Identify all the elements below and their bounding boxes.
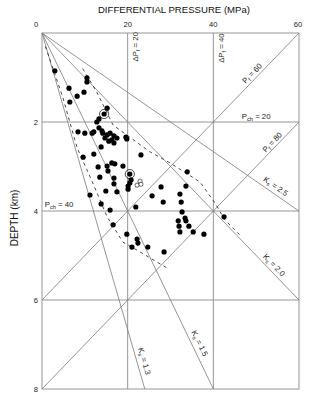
- annotation-value: = 2.0: [267, 258, 288, 279]
- data-point: [176, 218, 181, 223]
- annotation-pch-20: Pch = 20: [242, 112, 271, 122]
- data-point: [186, 224, 191, 229]
- data-point: [112, 161, 117, 166]
- data-point: [124, 136, 129, 141]
- annotation-pf-80: Pf = 80: [261, 130, 285, 155]
- data-point: [111, 222, 116, 227]
- annotation-value: = 60: [245, 61, 264, 80]
- data-point: [52, 68, 57, 73]
- data-point: [138, 152, 143, 157]
- data-point: [176, 224, 181, 229]
- data-point: [75, 129, 80, 134]
- data-point: [191, 229, 196, 234]
- annotation-pf-60: Pf = 60: [241, 61, 265, 86]
- data-point: [82, 131, 87, 136]
- annotation-ks-1-3: Ks = 1.3: [135, 347, 152, 376]
- data-point: [185, 169, 190, 174]
- x-tick-label: 60: [294, 20, 302, 29]
- data-point: [87, 192, 92, 197]
- data-point: [158, 184, 163, 189]
- data-point: [105, 106, 110, 111]
- right-envelope: [83, 69, 240, 235]
- data-point: [91, 151, 96, 156]
- data-point: [183, 183, 188, 188]
- data-point: [66, 86, 71, 91]
- data-points: [52, 68, 226, 254]
- data-point: [67, 99, 72, 104]
- data-point: [133, 204, 138, 209]
- data-point: [96, 164, 101, 169]
- data-point: [111, 181, 116, 186]
- y-tick-labels: 2468: [34, 118, 38, 394]
- data-point: [149, 193, 154, 198]
- annotation-value: = 40: [217, 33, 226, 51]
- annotation-symbol: ΔP: [131, 51, 140, 61]
- data-point: [108, 208, 113, 213]
- y-tick-label: 6: [34, 296, 38, 305]
- annotation-value: = 1.5: [193, 336, 210, 358]
- data-point: [111, 140, 116, 145]
- chart-title: DIFFERENTIAL PRESSURE (MPa): [98, 4, 250, 15]
- line-annotations: ΔPf = 20ΔPf = 40Pf = 60Pch = 20Pf = 80Ks…: [45, 31, 290, 376]
- data-point: [135, 240, 140, 245]
- data-point: [97, 175, 102, 180]
- data-point: [179, 209, 184, 214]
- data-point: [99, 201, 104, 206]
- open-data-point: [139, 182, 143, 186]
- data-point: [91, 129, 96, 134]
- data-point: [201, 232, 206, 237]
- annotation-value: = 20: [253, 112, 271, 121]
- y-axis-label: DEPTH (km): [9, 190, 20, 247]
- data-point: [114, 135, 119, 140]
- dashed-envelopes: [45, 46, 240, 268]
- data-point: [161, 200, 166, 205]
- x-tick-label: 0: [34, 20, 38, 29]
- x-tick-label: 40: [209, 20, 217, 29]
- y-tick-label: 4: [34, 207, 38, 216]
- data-point: [84, 79, 89, 84]
- data-point: [145, 244, 150, 249]
- data-point: [81, 90, 86, 95]
- annotation-value: = 2.5: [268, 179, 290, 198]
- data-point: [75, 94, 80, 99]
- annotation-ks-2-5: Ks = 2.5: [261, 175, 290, 199]
- annotation-dpf-40: ΔPf = 40: [217, 33, 227, 63]
- data-point: [106, 139, 111, 144]
- y-tick-label: 2: [34, 118, 38, 127]
- depth-vs-differential-pressure-chart: DIFFERENTIAL PRESSURE (MPa) DEPTH (km) 0…: [0, 0, 310, 399]
- data-point: [221, 214, 226, 219]
- annotation-value: = 40: [56, 200, 74, 209]
- data-point: [114, 189, 119, 194]
- data-point: [94, 119, 99, 124]
- data-point: [105, 163, 110, 168]
- annotation-value: = 20: [131, 31, 140, 49]
- data-point: [124, 232, 129, 237]
- x-tick-label: 20: [123, 20, 131, 29]
- annotation-ks-2-0: Ks = 2.0: [260, 252, 287, 279]
- annotation-dpf-20: ΔPf = 20: [131, 31, 141, 61]
- annotation-pch-40: Pch = 40: [45, 200, 74, 210]
- pore-pressure-line: [42, 122, 299, 389]
- data-point: [177, 229, 182, 234]
- open-data-point: [135, 183, 139, 187]
- data-point: [179, 200, 184, 205]
- data-point: [99, 144, 104, 149]
- data-point: [105, 168, 110, 173]
- data-point: [120, 163, 125, 168]
- annotation-symbol: ΔP: [217, 52, 226, 62]
- data-point: [81, 155, 86, 160]
- x-tick-labels: 0204060: [34, 20, 302, 29]
- data-point: [103, 188, 108, 193]
- y-tick-label: 8: [34, 385, 38, 394]
- grid-lines: [42, 33, 299, 389]
- left-envelope: [45, 46, 167, 268]
- data-point: [127, 171, 132, 176]
- data-point: [183, 218, 188, 223]
- annotation-value: = 1.3: [138, 354, 152, 375]
- data-point: [125, 187, 130, 192]
- data-point: [129, 244, 134, 249]
- data-point: [102, 111, 107, 116]
- data-point: [161, 249, 166, 254]
- data-point: [111, 175, 116, 180]
- data-point: [177, 191, 182, 196]
